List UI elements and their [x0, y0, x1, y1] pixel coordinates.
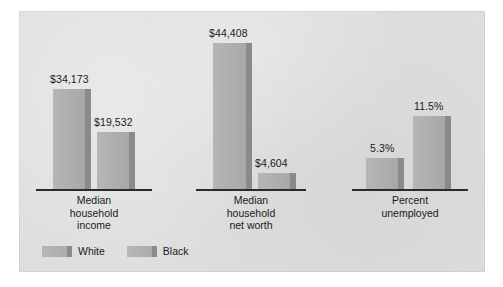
category-label-percent-unemployed: Percent unemployed: [352, 194, 468, 219]
bar-side-shadow: [290, 173, 296, 189]
plot-area: $34,173 $19,532 Median household income …: [0, 0, 503, 287]
chart-legend: White Black: [42, 245, 189, 257]
bar-face: [97, 132, 129, 189]
legend-swatch-white-icon: [42, 246, 72, 257]
group-baseline: [36, 189, 152, 191]
bar-face: [258, 173, 290, 189]
bar-value-label-white-net-worth: $44,408: [209, 27, 248, 39]
bar-black-median-household-net-worth: [258, 173, 296, 189]
bar-value-label-black-net-worth: $4,604: [255, 157, 288, 169]
swatch-side-shadow: [67, 246, 72, 257]
bar-black-percent-unemployed: [413, 116, 451, 189]
legend-label-black: Black: [163, 245, 189, 257]
bar-side-shadow: [129, 132, 135, 189]
bar-value-label-white-unemployed: 5.3%: [370, 142, 394, 154]
legend-label-white: White: [78, 245, 105, 257]
category-label-median-household-net-worth: Median household net worth: [196, 194, 306, 232]
bar-value-label-black-income: $19,532: [94, 116, 133, 128]
swatch-face: [127, 246, 152, 257]
group-baseline: [196, 189, 306, 191]
swatch-face: [42, 246, 67, 257]
bar-value-label-black-unemployed: 11.5%: [414, 100, 444, 112]
bar-white-median-household-net-worth: [213, 43, 252, 189]
bar-side-shadow: [445, 116, 451, 189]
bar-side-shadow: [246, 43, 252, 189]
bar-face: [366, 158, 398, 189]
bar-group-percent-unemployed: 5.3% 11.5% Percent unemployed: [352, 0, 468, 287]
bar-side-shadow: [85, 89, 91, 189]
legend-item-white: White: [42, 245, 105, 257]
bar-group-median-household-income: $34,173 $19,532 Median household income: [36, 0, 152, 287]
bar-side-shadow: [398, 158, 404, 189]
swatch-side-shadow: [152, 246, 157, 257]
bar-black-median-household-income: [97, 132, 135, 189]
group-baseline: [352, 189, 468, 191]
legend-swatch-black-icon: [127, 246, 157, 257]
figure-canvas: $34,173 $19,532 Median household income …: [0, 0, 503, 287]
bar-value-label-white-income: $34,173: [50, 73, 89, 85]
bar-group-median-household-net-worth: $44,408 $4,604 Median household net wort…: [196, 0, 306, 287]
bar-face: [413, 116, 445, 189]
category-label-median-household-income: Median household income: [36, 194, 152, 232]
bar-white-percent-unemployed: [366, 158, 404, 189]
legend-item-black: Black: [127, 245, 189, 257]
bar-face: [53, 89, 85, 189]
bar-white-median-household-income: [53, 89, 91, 189]
bar-face: [213, 43, 246, 189]
